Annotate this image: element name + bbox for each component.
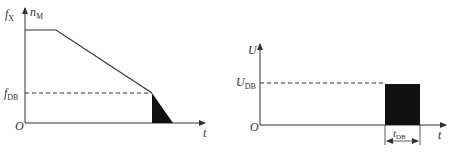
right-braking-pulse [385,84,420,125]
diagram-canvas: fX nM fDB O t U UDB O t tDB [0,0,451,155]
right-chart: U UDB O t tDB [236,43,446,145]
left-frequency-curve [25,30,152,93]
left-chart: fX nM fDB O t [4,5,207,140]
left-fdb-label: fDB [4,86,18,102]
right-origin-label: O [250,120,259,134]
tdb-label: tDB [393,127,406,141]
left-x-label: t [203,126,207,140]
left-braking-region [152,93,173,123]
left-y-label-2: nM [30,5,43,21]
left-y-label: fX [5,7,14,23]
right-y-label: U [248,43,258,57]
right-x-label: t [438,128,442,142]
left-origin-label: O [15,119,24,133]
right-udb-label: UDB [236,75,256,91]
